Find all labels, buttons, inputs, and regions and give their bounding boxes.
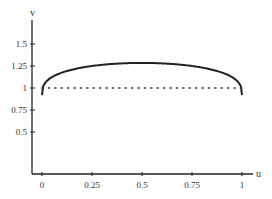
chart: 00.250.50.7510.50.7511.251.5 u v <box>0 0 272 199</box>
y-tick-label: 1 <box>23 83 28 93</box>
ticks: 00.250.50.7510.50.7511.251.5 <box>11 39 244 190</box>
x-tick-label: 0 <box>40 180 45 190</box>
y-tick-label: 0.5 <box>16 127 28 137</box>
curve-line <box>42 63 242 95</box>
x-tick-label: 0.25 <box>84 180 100 190</box>
series <box>42 63 242 95</box>
y-tick-label: 0.75 <box>11 105 27 115</box>
axes <box>32 20 253 174</box>
x-axis-label: u <box>256 168 261 179</box>
x-tick-label: 0.5 <box>136 180 148 190</box>
x-tick-label: 1 <box>240 180 245 190</box>
y-axis-label: v <box>30 7 35 18</box>
x-tick-label: 0.75 <box>184 180 200 190</box>
y-tick-label: 1.25 <box>11 61 27 71</box>
y-tick-label: 1.5 <box>16 39 28 49</box>
